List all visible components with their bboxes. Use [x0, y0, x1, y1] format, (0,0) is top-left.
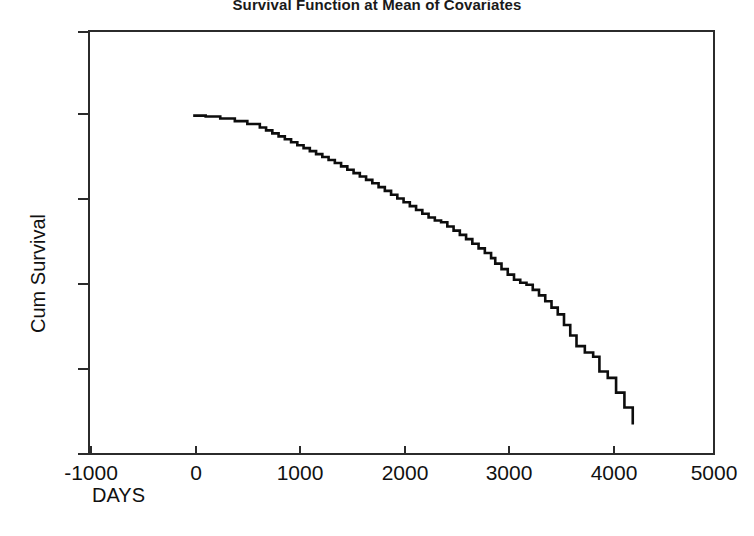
- xtick-mark-5000: [713, 446, 715, 455]
- xtick-mark--1000: [90, 446, 92, 455]
- xtick-label-3000: 3000: [449, 462, 569, 483]
- xtick-mark-4000: [613, 446, 615, 455]
- y-axis-title: Cum Survival: [27, 184, 50, 364]
- xtick-label-5000: 5000: [654, 462, 754, 483]
- xtick-label-1000: 1000: [240, 462, 360, 483]
- ytick-mark-4: [78, 283, 88, 285]
- chart-container: Survival Function at Mean of Covariates …: [0, 0, 754, 536]
- xtick-label--1000: -1000: [31, 462, 151, 483]
- xtick-mark-0: [195, 446, 197, 455]
- ytick-mark-1: [78, 31, 88, 33]
- ytick-mark-6: [78, 453, 88, 455]
- xtick-label-0: 0: [136, 462, 256, 483]
- ytick-mark-3: [78, 198, 88, 200]
- xtick-mark-3000: [508, 446, 510, 455]
- ytick-mark-5: [78, 368, 88, 370]
- xtick-label-2000: 2000: [345, 462, 465, 483]
- xtick-mark-1000: [299, 446, 301, 455]
- plot-frame: [88, 30, 715, 455]
- ytick-mark-2: [78, 113, 88, 115]
- xtick-mark-2000: [404, 446, 406, 455]
- chart-title: Survival Function at Mean of Covariates: [0, 0, 754, 13]
- x-axis-title: DAYS: [92, 484, 145, 507]
